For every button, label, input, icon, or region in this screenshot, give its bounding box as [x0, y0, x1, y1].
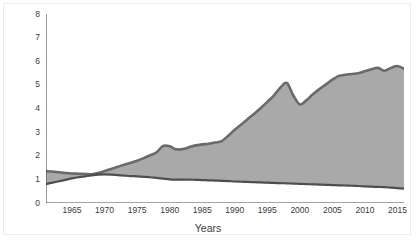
x-tick-label: 1965 — [63, 206, 82, 215]
x-tick-label: 1970 — [95, 206, 114, 215]
x-tick-label: 2010 — [355, 206, 374, 215]
x-tick-label: 2015 — [388, 206, 407, 215]
x-axis-tick-labels: 1965197019751980198519901995200020052010… — [46, 206, 404, 220]
y-tick-label: 0 — [26, 199, 40, 208]
x-tick-label: 2000 — [290, 206, 309, 215]
y-tick-label: 6 — [26, 57, 40, 66]
plot-area — [46, 14, 404, 203]
x-tick-label: 1980 — [160, 206, 179, 215]
y-tick-label: 3 — [26, 128, 40, 137]
x-axis-title: Years — [0, 222, 416, 234]
x-tick-label: 1985 — [193, 206, 212, 215]
x-tick-label: 1990 — [225, 206, 244, 215]
y-tick-label: 1 — [26, 175, 40, 184]
y-tick-label: 4 — [26, 104, 40, 113]
y-tick-label: 7 — [26, 33, 40, 42]
chart-figure: Global hectares per person 012345678 196… — [0, 0, 416, 242]
x-tick-label: 1995 — [258, 206, 277, 215]
x-tick-label: 2005 — [323, 206, 342, 215]
x-tick-label: 1975 — [128, 206, 147, 215]
y-tick-label: 2 — [26, 151, 40, 160]
y-tick-label: 5 — [26, 80, 40, 89]
y-tick-label: 8 — [26, 10, 40, 19]
area-chart-svg — [46, 14, 404, 203]
y-axis-tick-labels: 012345678 — [24, 14, 40, 203]
